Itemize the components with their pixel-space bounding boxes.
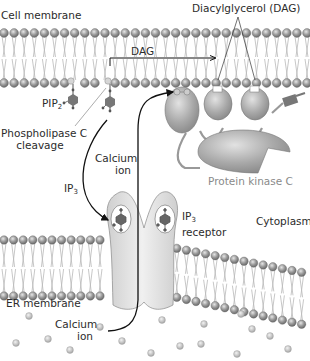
lipid-head [161, 29, 170, 38]
protein-kinase-c-label: Protein kinase C [208, 175, 293, 187]
lipid-head [288, 318, 296, 326]
lipid-head [161, 79, 170, 88]
lipid-head [192, 79, 201, 88]
lipid-head [249, 310, 257, 318]
lipid-head [252, 29, 261, 38]
calcium-ion [238, 311, 245, 318]
lipid-head [202, 29, 211, 38]
pip2-label: PIP2 [42, 97, 62, 113]
calcium-ion [148, 350, 155, 357]
lipid-head [278, 264, 286, 272]
lipid-head [70, 29, 79, 38]
lipid-head [212, 29, 221, 38]
lipid-head [181, 79, 190, 88]
lipid-head [297, 320, 305, 328]
lipid-head [0, 29, 8, 38]
lipid-head [80, 79, 89, 88]
dag-full-label: Diacylglycerol (DAG) [192, 2, 300, 14]
lipid-head [141, 29, 150, 38]
cell-membrane-label: Cell membrane [1, 9, 81, 21]
lipid-head [50, 79, 59, 88]
calcium-ion [198, 341, 205, 348]
lipid-head [293, 79, 302, 88]
lipid-head [269, 314, 277, 322]
lipid-head [192, 29, 201, 38]
lipid-head [60, 29, 69, 38]
calcium-ion [267, 333, 274, 340]
lipid-head [222, 29, 231, 38]
lipid-head [40, 79, 49, 88]
lipid-head [293, 29, 302, 38]
lipid-head [181, 29, 190, 38]
lipid-head [240, 257, 248, 265]
calcium-ion-bottom-label: Calcium ion [55, 318, 93, 342]
lipid-head [262, 79, 271, 88]
lipid-head [303, 79, 310, 88]
lipid-head [171, 79, 180, 88]
lipid-head [221, 304, 229, 312]
lipid-head [77, 236, 85, 244]
phospholipase-c-label: Phospholipase C cleavage [1, 127, 79, 151]
calcium-ion [177, 343, 184, 350]
lipid-head [96, 236, 104, 244]
lipid-head [131, 79, 140, 88]
lipid-head [29, 236, 37, 244]
lipid-head [182, 295, 190, 303]
lipid-head [131, 29, 140, 38]
lipid-head [40, 29, 49, 38]
lipid-head [0, 79, 8, 88]
calcium-ion [97, 324, 104, 331]
ip3-label: IP3 [64, 182, 78, 198]
lipid-head [121, 29, 130, 38]
lipid-head [121, 79, 130, 88]
lipid-head [0, 236, 8, 244]
lipid-head [48, 236, 56, 244]
calcium-ion [249, 326, 256, 333]
lipid-head [111, 29, 120, 38]
er-membrane-label: ER membrane [6, 297, 81, 309]
phospholipase-pointer [75, 88, 106, 126]
lipid-head [20, 29, 29, 38]
lipid-head [288, 266, 296, 274]
calcium-ion [201, 321, 208, 328]
lipid-head [91, 79, 100, 88]
lipid-head [10, 79, 19, 88]
lipid-head [19, 236, 27, 244]
lipid-head [222, 79, 231, 88]
lipid-head [111, 79, 120, 88]
lipid-head [230, 306, 238, 314]
lipid-head [10, 29, 19, 38]
lipid-head [192, 248, 200, 256]
lipid-head [96, 292, 104, 300]
lipid-head [60, 79, 69, 88]
lipid-head [30, 79, 39, 88]
dag-arrow [110, 58, 215, 66]
lipid-head [86, 292, 94, 300]
lipid-head [297, 268, 305, 276]
lipid-head [30, 29, 39, 38]
lipid-head [211, 301, 219, 309]
lipid-head [303, 29, 310, 38]
lipid-head [182, 246, 190, 254]
lipid-head [262, 29, 271, 38]
lipid-head [20, 79, 29, 88]
calcium-ion [234, 351, 241, 358]
lipid-head [201, 299, 209, 307]
lipid-head [221, 253, 229, 261]
lipid-head [141, 79, 150, 88]
calcium-ion-top-label: Calcium ion [95, 152, 131, 176]
lipid-head [50, 29, 59, 38]
lipid-head [86, 236, 94, 244]
lipid-head [211, 252, 219, 260]
lipid-head [67, 236, 75, 244]
lipid-head [272, 79, 281, 88]
dag-short-label: DAG [131, 45, 154, 57]
lipid-head [282, 79, 291, 88]
lipid-head [57, 236, 65, 244]
calcium-ion [285, 346, 292, 353]
calcium-ion [13, 340, 20, 347]
lipid-head [38, 236, 46, 244]
calcium-ion [119, 338, 126, 345]
lipid-head [259, 312, 267, 320]
lipid-head [202, 79, 211, 88]
